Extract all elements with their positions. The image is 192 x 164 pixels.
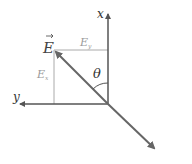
x-axis-label: x bbox=[97, 7, 104, 21]
svg-text:E: E bbox=[42, 39, 54, 57]
opposite-vector bbox=[108, 104, 154, 148]
svg-text:E: E bbox=[79, 36, 88, 49]
ex-label: E x bbox=[36, 68, 49, 81]
svg-text:x: x bbox=[45, 74, 49, 81]
ey-label: E y bbox=[79, 36, 92, 50]
vector-arrow-accent bbox=[46, 34, 53, 38]
field-vector-diagram: x y E E y E x θ bbox=[0, 0, 192, 164]
theta-arc bbox=[93, 83, 108, 89]
svg-text:E: E bbox=[36, 68, 45, 81]
y-axis-label: y bbox=[12, 90, 20, 104]
svg-text:y: y bbox=[87, 42, 92, 50]
e-vector-label: E bbox=[42, 34, 54, 57]
theta-label: θ bbox=[93, 66, 101, 81]
